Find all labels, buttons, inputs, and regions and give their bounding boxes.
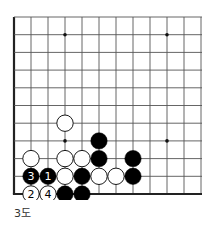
black-stone [91, 150, 107, 166]
star-point-icon [165, 139, 169, 143]
diagram-caption: 3도 [14, 204, 31, 220]
black-stone-move-3: 3 [23, 168, 39, 184]
white-stone [74, 150, 90, 166]
black-stone-icon [91, 133, 107, 149]
white-stone [108, 168, 124, 184]
black-stone-move-1: 1 [40, 168, 56, 184]
black-stone [125, 168, 141, 184]
move-number: 4 [45, 188, 52, 200]
white-stone-icon [108, 168, 124, 184]
black-stone [57, 186, 73, 200]
star-point-icon [165, 33, 169, 37]
white-stone-icon [74, 150, 90, 166]
white-stone-icon [57, 115, 73, 131]
move-number: 3 [28, 170, 35, 183]
black-stone [74, 186, 90, 200]
black-stone [74, 168, 90, 184]
white-stone-icon [91, 168, 107, 184]
star-point-icon [63, 139, 67, 143]
white-stone [23, 150, 39, 166]
go-board: 3124 [0, 0, 214, 200]
white-stone [57, 168, 73, 184]
white-stone-icon [57, 168, 73, 184]
black-stone [125, 150, 141, 166]
white-stone-move-4: 4 [40, 186, 56, 200]
black-stone-icon [91, 150, 107, 166]
black-stone [91, 133, 107, 149]
grid-lines [13, 17, 202, 194]
white-stone [91, 168, 107, 184]
black-stone-icon [125, 168, 141, 184]
black-stone-icon [57, 186, 73, 200]
white-stone-icon [23, 150, 39, 166]
white-stone-move-2: 2 [23, 186, 39, 200]
black-stone-icon [74, 168, 90, 184]
white-stone [57, 150, 73, 166]
star-point-icon [63, 33, 67, 37]
move-number: 1 [45, 170, 52, 183]
black-stone-icon [125, 150, 141, 166]
move-number: 2 [28, 188, 35, 200]
white-stone [57, 115, 73, 131]
black-stone-icon [74, 186, 90, 200]
white-stone-icon [57, 150, 73, 166]
